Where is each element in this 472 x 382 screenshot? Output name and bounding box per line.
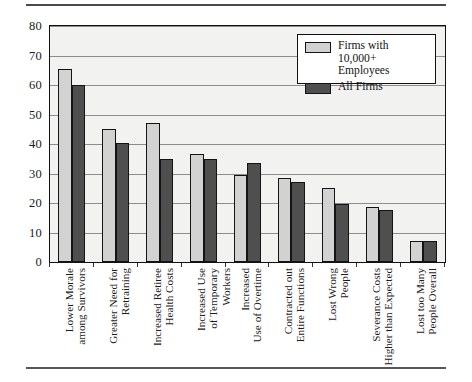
bar-group (94, 129, 138, 262)
legend-swatch-firms-10000-plus (305, 42, 331, 53)
bar-group (226, 163, 270, 262)
bar-group (401, 241, 445, 262)
legend-label-0: Firms with 10,000+ Employees (338, 40, 429, 78)
y-tick-label-40: 40 (29, 137, 42, 152)
bar (160, 159, 174, 262)
x-axis-labels: Lower Morale among SurvivorsGreater Need… (49, 268, 446, 368)
bar (278, 178, 292, 262)
y-tick-label-20: 20 (29, 196, 42, 211)
x-axis-label: Lost too Many People Overall (414, 268, 439, 368)
x-axis-label: Increased Use of Overtime (239, 268, 264, 368)
x-tick (137, 263, 138, 267)
x-tick (93, 263, 94, 267)
bar-group (313, 188, 357, 262)
bar-group (50, 69, 94, 262)
bar (146, 123, 160, 262)
x-axis-label: Increased Use of Temporary Workers (195, 268, 232, 368)
bar (116, 143, 130, 262)
bar-group (182, 154, 226, 262)
bar (322, 188, 336, 262)
y-tick-label-50: 50 (29, 107, 42, 122)
y-axis: 01020304050607080 (0, 25, 49, 265)
legend-entry-1: All Firms (305, 81, 429, 94)
x-axis-label: Lost Wrong People (326, 268, 351, 368)
chart-legend: Firms with 10,000+ Employees All Firms (297, 34, 436, 84)
bar-group (138, 123, 182, 262)
x-tick (49, 263, 50, 267)
legend-entry-0: Firms with 10,000+ Employees (305, 40, 429, 78)
x-tick (225, 263, 226, 267)
legend-label-1: All Firms (338, 81, 383, 94)
x-axis-label: Lower Morale among Survivors (63, 268, 88, 368)
x-axis-label: Increased Retiree Health Costs (151, 268, 176, 368)
x-tick (400, 263, 401, 267)
x-tick (356, 263, 357, 267)
x-tick (444, 263, 445, 267)
bar-group (269, 178, 313, 262)
x-tick (181, 263, 182, 267)
legend-swatch-all-firms (305, 83, 331, 94)
bar (379, 210, 393, 262)
x-axis-label: Contracted out Entire Functions (282, 268, 307, 368)
top-rule (26, 4, 446, 6)
bar (291, 182, 305, 262)
x-tick (268, 263, 269, 267)
bar (190, 154, 204, 262)
bar-chart-figure: 01020304050607080 Lower Morale among Sur… (0, 0, 472, 382)
bar (102, 129, 116, 262)
bar (423, 241, 437, 262)
x-axis-label: Greater Need for Retraining (107, 268, 132, 368)
x-tick (312, 263, 313, 267)
y-tick-label-30: 30 (29, 166, 42, 181)
y-tick-label-10: 10 (29, 225, 42, 240)
bar (247, 163, 261, 262)
bar (234, 175, 248, 262)
y-tick-label-0: 0 (36, 255, 42, 270)
x-axis-label: Severance Costs Higher than Expected (370, 268, 395, 368)
y-tick-label-80: 80 (29, 19, 42, 34)
y-tick-label-60: 60 (29, 78, 42, 93)
bar-group (357, 207, 401, 262)
bar (204, 159, 218, 262)
y-tick-label-70: 70 (29, 48, 42, 63)
bar (410, 241, 424, 262)
bar (366, 207, 380, 262)
bar (335, 204, 349, 262)
bar (58, 69, 72, 262)
bar (72, 85, 86, 262)
